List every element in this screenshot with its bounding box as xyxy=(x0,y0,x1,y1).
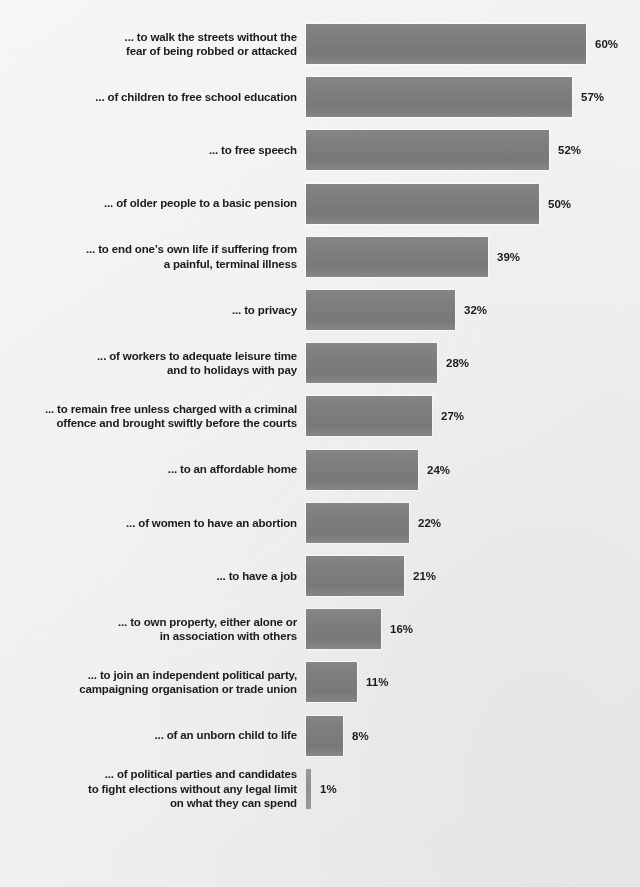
bar-category-label: ... to end one’s own life if suffering f… xyxy=(17,242,297,271)
bar-value-label: 32% xyxy=(464,304,487,316)
bar xyxy=(306,290,455,330)
bar-value-label: 24% xyxy=(427,464,450,476)
bar-group: 32% xyxy=(306,290,487,330)
bar xyxy=(306,503,409,543)
bar-category-label: ... of workers to adequate leisure time … xyxy=(17,349,297,378)
bar-category-label: ... of children to free school education xyxy=(17,90,297,105)
chart-row: ... of political parties and candidates … xyxy=(0,769,640,809)
bar-value-label: 57% xyxy=(581,91,604,103)
chart-row: ... of women to have an abortion22% xyxy=(0,503,640,543)
bar-category-label: ... to have a job xyxy=(17,569,297,584)
bar-group: 27% xyxy=(306,396,464,436)
bar xyxy=(306,184,539,224)
bar-group: 1% xyxy=(306,769,337,809)
bar-value-label: 1% xyxy=(320,783,337,795)
chart-row: ... to own property, either alone or in … xyxy=(0,609,640,649)
bar-chart-plot-area: ... to walk the streets without the fear… xyxy=(0,0,640,887)
chart-row: ... of older people to a basic pension50… xyxy=(0,184,640,224)
bar-group: 11% xyxy=(306,662,388,702)
bar-value-label: 28% xyxy=(446,357,469,369)
bar xyxy=(306,556,404,596)
chart-row: ... to walk the streets without the fear… xyxy=(0,24,640,64)
bar-category-label: ... of political parties and candidates … xyxy=(17,767,297,811)
bar-category-label: ... of older people to a basic pension xyxy=(17,196,297,211)
bar-value-label: 39% xyxy=(497,251,520,263)
chart-row: ... to an affordable home24% xyxy=(0,450,640,490)
chart-row: ... of children to free school education… xyxy=(0,77,640,117)
bar-value-label: 50% xyxy=(548,198,571,210)
bar-value-label: 22% xyxy=(418,517,441,529)
bar-category-label: ... to an affordable home xyxy=(17,462,297,477)
bar-group: 52% xyxy=(306,130,581,170)
bar-group: 24% xyxy=(306,450,450,490)
bar-category-label: ... to join an independent political par… xyxy=(17,668,297,697)
chart-row: ... to join an independent political par… xyxy=(0,662,640,702)
bar xyxy=(306,24,586,64)
chart-row: ... of workers to adequate leisure time … xyxy=(0,343,640,383)
bar-category-label: ... to own property, either alone or in … xyxy=(17,615,297,644)
bar-category-label: ... to remain free unless charged with a… xyxy=(17,402,297,431)
bar xyxy=(306,237,488,277)
bar xyxy=(306,609,381,649)
bar-category-label: ... to walk the streets without the fear… xyxy=(17,30,297,59)
bar xyxy=(306,343,437,383)
bar-group: 16% xyxy=(306,609,413,649)
bar-value-label: 52% xyxy=(558,144,581,156)
bar-value-label: 27% xyxy=(441,410,464,422)
bar-category-label: ... of an unborn child to life xyxy=(17,728,297,743)
bar-group: 21% xyxy=(306,556,436,596)
chart-row: ... to end one’s own life if suffering f… xyxy=(0,237,640,277)
bar-group: 57% xyxy=(306,77,604,117)
chart-row: ... to privacy32% xyxy=(0,290,640,330)
bar-value-label: 60% xyxy=(595,38,618,50)
bar-group: 39% xyxy=(306,237,520,277)
chart-row: ... to remain free unless charged with a… xyxy=(0,396,640,436)
bar-group: 60% xyxy=(306,24,618,64)
bar-group: 22% xyxy=(306,503,441,543)
bar-value-label: 16% xyxy=(390,623,413,635)
chart-row: ... to free speech52% xyxy=(0,130,640,170)
bar-value-label: 21% xyxy=(413,570,436,582)
bar-category-label: ... of women to have an abortion xyxy=(17,516,297,531)
bar xyxy=(306,769,311,809)
bar xyxy=(306,662,357,702)
chart-row: ... of an unborn child to life8% xyxy=(0,716,640,756)
bar xyxy=(306,716,343,756)
bar-group: 8% xyxy=(306,716,369,756)
bar xyxy=(306,77,572,117)
bar-value-label: 8% xyxy=(352,730,369,742)
bar-group: 50% xyxy=(306,184,571,224)
bar xyxy=(306,396,432,436)
bar-category-label: ... to privacy xyxy=(17,303,297,318)
bar-group: 28% xyxy=(306,343,469,383)
chart-container: ... to walk the streets without the fear… xyxy=(0,0,640,887)
bar xyxy=(306,450,418,490)
bar xyxy=(306,130,549,170)
bar-category-label: ... to free speech xyxy=(17,143,297,158)
chart-row: ... to have a job21% xyxy=(0,556,640,596)
bar-value-label: 11% xyxy=(366,676,388,688)
